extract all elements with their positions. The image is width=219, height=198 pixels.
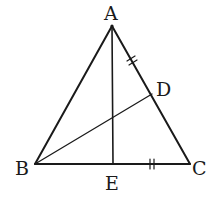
label-b: B xyxy=(15,157,29,179)
point-a-dot xyxy=(110,24,113,27)
label-c: C xyxy=(192,157,207,179)
segment-ae xyxy=(112,26,113,164)
segment-bd xyxy=(35,94,152,164)
segment-ab xyxy=(35,26,112,164)
geometry-diagram: A B C D E xyxy=(0,0,219,198)
triangle-figure: A B C D E xyxy=(0,0,219,198)
label-d: D xyxy=(156,78,171,100)
label-e: E xyxy=(105,172,119,194)
label-a: A xyxy=(103,2,118,24)
